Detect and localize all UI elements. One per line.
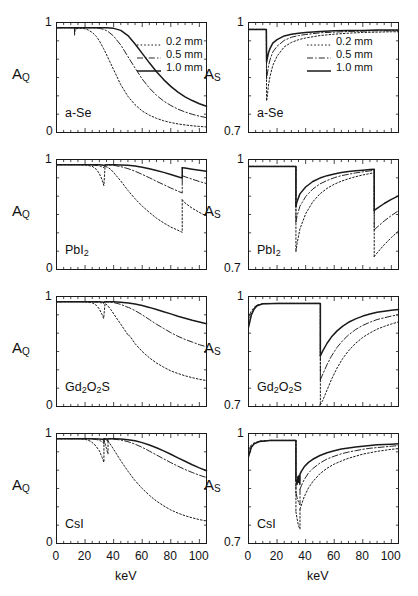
axis-label-subscript: Q: [22, 483, 30, 494]
xtick-label-left-3: 60: [135, 549, 148, 563]
y-axis-label-AS-2: AS: [204, 339, 221, 357]
axis-label-base: A: [204, 65, 214, 82]
material-label-PbI2-AS: PbI2: [257, 243, 281, 258]
ytick-max-1: 1: [237, 15, 244, 29]
legend-swatch-solid-AS: [306, 62, 332, 80]
xtick-label-left-5: 100: [189, 549, 209, 563]
legend-label-AS-0: 0.2 mm: [336, 35, 373, 47]
xtick-label-right-2: 40: [298, 549, 311, 563]
figure-root: 10AQa-Se0.2 mm0.5 mm1.0 mm10.7ASa-Se0.2 …: [0, 0, 418, 596]
ytick-min-6: 0: [46, 535, 53, 549]
material-label-PbI2-AQ: PbI2: [65, 243, 89, 258]
axis-label-base: A: [12, 202, 22, 219]
ytick-max-2: 1: [45, 152, 52, 166]
y-axis-label-AS-1: AS: [204, 202, 221, 220]
y-axis-label-AQ-3: AQ: [12, 476, 30, 494]
axis-label-subscript: S: [214, 209, 221, 220]
axis-label-subscript: Q: [22, 72, 30, 83]
axis-label-base: A: [12, 65, 22, 82]
ytick-max-4: 1: [45, 289, 52, 303]
xtick-label-left-2: 40: [106, 549, 119, 563]
xtick-label-left-0: 0: [53, 549, 60, 563]
x-axis-title-left: keV: [115, 569, 137, 583]
legend-label-AQ-1: 0.5 mm: [166, 48, 203, 60]
ytick-min-4: 0: [46, 398, 53, 412]
material-label-Gd2O2S-AS: Gd2O2S: [257, 380, 302, 395]
ytick-min-7: 0.7: [224, 535, 241, 549]
xtick-label-right-4: 80: [355, 549, 368, 563]
material-label-a-Se-AQ: a-Se: [65, 106, 91, 120]
legend-label-AS-1: 0.5 mm: [336, 48, 373, 60]
ytick-max-0: 1: [45, 15, 52, 29]
axis-label-subscript: S: [214, 72, 221, 83]
ytick-min-3: 0.7: [224, 261, 241, 275]
axis-label-base: A: [12, 339, 22, 356]
ytick-max-5: 1: [237, 289, 244, 303]
xtick-label-left-1: 20: [78, 549, 91, 563]
axis-label-base: A: [204, 476, 214, 493]
axis-label-base: A: [204, 339, 214, 356]
legend-label-AQ-0: 0.2 mm: [166, 35, 203, 47]
legend-swatch-solid-AQ: [136, 62, 162, 80]
ytick-min-5: 0.7: [224, 398, 241, 412]
ytick-min-1: 0.7: [224, 124, 241, 138]
y-axis-label-AQ-2: AQ: [12, 339, 30, 357]
x-axis-title-right: keV: [307, 569, 329, 583]
y-axis-label-AS-0: AS: [204, 65, 221, 83]
axis-label-subscript: S: [214, 483, 221, 494]
axis-label-base: A: [204, 202, 214, 219]
ytick-max-7: 1: [237, 426, 244, 440]
axis-label-base: A: [12, 476, 22, 493]
material-label-a-Se-AS: a-Se: [257, 106, 283, 120]
y-axis-label-AS-3: AS: [204, 476, 221, 494]
ytick-min-0: 0: [46, 124, 53, 138]
xtick-label-right-1: 20: [270, 549, 283, 563]
axis-label-subscript: S: [214, 346, 221, 357]
ytick-max-6: 1: [45, 426, 52, 440]
axis-label-subscript: Q: [22, 209, 30, 220]
legend-label-AQ-2: 1.0 mm: [166, 61, 203, 73]
xtick-label-right-3: 60: [327, 549, 340, 563]
xtick-label-right-0: 0: [245, 549, 252, 563]
y-axis-label-AQ-1: AQ: [12, 202, 30, 220]
material-label-CsI-AQ: CsI: [65, 517, 84, 531]
ytick-max-3: 1: [237, 152, 244, 166]
y-axis-label-AQ-0: AQ: [12, 65, 30, 83]
xtick-label-left-4: 80: [163, 549, 176, 563]
xtick-label-right-5: 100: [381, 549, 401, 563]
legend-label-AS-2: 1.0 mm: [336, 61, 373, 73]
material-label-Gd2O2S-AQ: Gd2O2S: [65, 380, 110, 395]
material-label-CsI-AS: CsI: [257, 517, 276, 531]
axis-label-subscript: Q: [22, 346, 30, 357]
ytick-min-2: 0: [46, 261, 53, 275]
